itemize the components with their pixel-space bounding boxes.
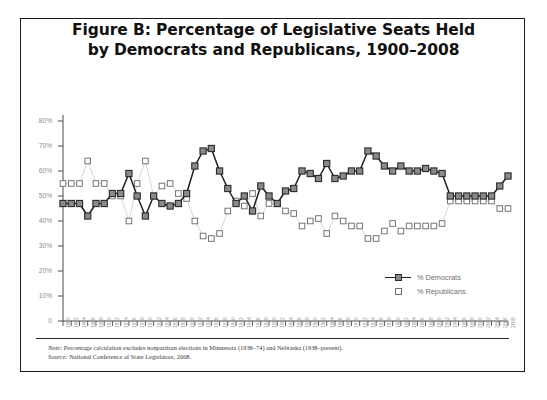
chart-legend: % Democrats % Republicans	[383, 270, 466, 298]
x-axis-tick-label: 1980	[395, 317, 401, 328]
x-axis-tick-label: 1902	[73, 317, 79, 328]
x-axis-tick-label: 1988	[428, 317, 434, 328]
legend-marker-democrats	[395, 274, 402, 281]
x-axis-tick-label: 2008	[510, 317, 516, 328]
y-axis-tick-label: 80%	[26, 117, 52, 124]
x-axis-tick-label: 1942	[238, 317, 244, 328]
legend-key-democrats	[383, 271, 413, 283]
x-axis-tick-label: 1946	[255, 317, 261, 328]
x-axis-tick-label: 1900	[65, 317, 71, 328]
x-axis-tick-label: 1958	[304, 317, 310, 328]
x-axis-tick-label: 1944	[246, 317, 252, 328]
x-axis-tick-label: 1950	[271, 317, 277, 328]
footnote-note-text: Percentage calculation excludes nonparti…	[62, 344, 343, 351]
x-axis-tick-label: 1960	[312, 317, 318, 328]
x-axis-tick-label: 2000	[477, 317, 483, 328]
y-axis-tick-label: 30%	[26, 242, 52, 249]
footnote-source-label: Source:	[48, 353, 68, 360]
y-axis-tick-label: 60%	[26, 167, 52, 174]
legend-key-republicans	[383, 285, 413, 297]
footnote-note: Note: Percentage calculation excludes no…	[48, 343, 498, 352]
footnote-source: Source: National Conference of State Leg…	[48, 352, 498, 361]
x-axis-tick-label: 1996	[461, 317, 467, 328]
x-axis-tick-label: 1908	[98, 317, 104, 328]
x-axis-tick-label: 1956	[296, 317, 302, 328]
x-axis-tick-label: 1910	[106, 317, 112, 328]
y-axis-tick-label: 40%	[26, 217, 52, 224]
x-axis-tick-label: 1918	[139, 317, 145, 328]
x-axis-tick-label: 1992	[444, 317, 450, 328]
x-axis-tick-label: 1970	[353, 317, 359, 328]
x-axis-tick-label: 1994	[452, 317, 458, 328]
y-axis-tick-label: 70%	[26, 142, 52, 149]
y-axis-tick-label: 10%	[26, 292, 52, 299]
x-axis-tick-label: 1978	[386, 317, 392, 328]
footnote-divider	[36, 338, 509, 339]
x-axis-tick-label: 1914	[123, 317, 129, 328]
y-axis-tick-label: 50%	[26, 192, 52, 199]
footnote-note-label: Note:	[48, 344, 62, 351]
x-axis-tick-label: 1928	[180, 317, 186, 328]
x-axis-tick-label: 1948	[263, 317, 269, 328]
chart-canvas	[0, 0, 547, 400]
x-axis-tick-label: 1986	[419, 317, 425, 328]
x-axis-tick-label: 1922	[156, 317, 162, 328]
y-axis-tick-label: 0	[26, 317, 52, 324]
x-axis-tick-label: 1926	[172, 317, 178, 328]
x-axis-tick-label: 1916	[131, 317, 137, 328]
x-axis-tick-label: 1920	[147, 317, 153, 328]
x-axis-tick-label: 1930	[189, 317, 195, 328]
x-axis-tick-label: 1976	[378, 317, 384, 328]
x-axis-tick-label: 1954	[288, 317, 294, 328]
x-axis-tick-label: 1998	[469, 317, 475, 328]
x-axis-tick-label: 1962	[320, 317, 326, 328]
legend-item-democrats: % Democrats	[383, 270, 466, 284]
legend-item-republicans: % Republicans	[383, 284, 466, 298]
x-axis-tick-label: 1952	[279, 317, 285, 328]
x-axis-tick-label: 1932	[197, 317, 203, 328]
x-axis-tick-label: 1990	[436, 317, 442, 328]
x-axis-tick-label: 1924	[164, 317, 170, 328]
x-axis-tick-label: 1968	[345, 317, 351, 328]
footnote-source-text: National Conference of State Legislators…	[68, 353, 192, 360]
x-axis-tick-label: 1974	[370, 317, 376, 328]
x-axis-tick-label: 2004	[494, 317, 500, 328]
x-axis-tick-label: 1938	[222, 317, 228, 328]
x-axis-tick-label: 1972	[362, 317, 368, 328]
x-axis-tick-label: 1940	[230, 317, 236, 328]
x-axis-tick-label: 1906	[90, 317, 96, 328]
x-axis-tick-label: 1936	[213, 317, 219, 328]
x-axis-tick-label: 1934	[205, 317, 211, 328]
x-axis-tick-label: 1982	[403, 317, 409, 328]
legend-label-republicans: % Republicans	[417, 287, 466, 296]
x-axis-tick-label: 1966	[337, 317, 343, 328]
x-axis-tick-label: 2002	[485, 317, 491, 328]
x-axis-tick-label: 2006	[502, 317, 508, 328]
x-axis-tick-label: 1984	[411, 317, 417, 328]
x-axis-tick-label: 1904	[81, 317, 87, 328]
x-axis-tick-label: 1912	[114, 317, 120, 328]
x-axis-tick-label: 1964	[329, 317, 335, 328]
footnote-block: Note: Percentage calculation excludes no…	[48, 343, 498, 361]
y-axis-tick-label: 20%	[26, 267, 52, 274]
legend-label-democrats: % Democrats	[417, 273, 461, 282]
legend-marker-republicans	[395, 288, 402, 295]
